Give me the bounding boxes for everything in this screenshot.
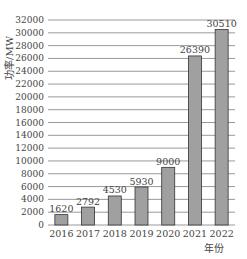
y-tick-label: 32000 [15, 15, 44, 25]
bar-value-label: 1620 [49, 203, 73, 214]
x-tick-label: 2016 [49, 228, 73, 239]
bar-2022 [215, 30, 228, 225]
bar-value-label: 4530 [103, 184, 127, 195]
bar-value-label: 26390 [180, 44, 210, 55]
y-tick-label: 24000 [15, 66, 44, 76]
x-tick-label: 2017 [76, 228, 100, 239]
bar-2019 [135, 187, 148, 225]
bar-value-label: 30510 [207, 18, 237, 29]
bars: 162027924530593090002639030510 [49, 18, 236, 225]
bar-value-label: 2792 [76, 196, 100, 207]
y-tick-label: 8000 [21, 169, 44, 179]
y-tick-label: 12000 [15, 143, 44, 153]
x-tick-label: 2018 [103, 228, 127, 239]
x-tick-label: 2020 [156, 228, 180, 239]
y-tick-label: 20000 [15, 92, 44, 102]
y-tick-label: 22000 [15, 79, 44, 89]
y-tick-label: 2000 [21, 207, 44, 217]
x-tick-label: 2022 [210, 228, 234, 239]
y-tick-label: 30000 [15, 28, 44, 38]
y-tick-label: 4000 [21, 194, 44, 204]
bar-2018 [108, 196, 121, 225]
y-tick-label: 18000 [15, 105, 44, 115]
bar-2016 [55, 215, 68, 225]
y-tick-label: 10000 [15, 156, 44, 166]
y-tick-label: 0 [38, 220, 44, 230]
y-tick-label: 26000 [15, 53, 44, 63]
y-axis-title: 功率/MW [3, 35, 15, 80]
y-tick-label: 28000 [15, 41, 44, 51]
bar-value-label: 9000 [156, 156, 180, 167]
x-tick-label: 2019 [129, 228, 153, 239]
bar-value-label: 5930 [129, 176, 153, 187]
bar-2021 [188, 56, 201, 225]
y-tick-label: 16000 [15, 118, 44, 128]
x-axis-ticks: 2016201720182019202020212022 [49, 228, 233, 239]
y-tick-label: 6000 [21, 182, 44, 192]
x-tick-label: 2021 [183, 228, 207, 239]
y-axis-ticks: 0200040006000800010000120001400016000180… [15, 15, 44, 230]
x-axis-title: 年份 [204, 242, 224, 254]
bar-2017 [82, 207, 95, 225]
bar-2020 [162, 167, 175, 225]
y-tick-label: 14000 [15, 130, 44, 140]
bar-chart: 0200040006000800010000120001400016000180… [0, 0, 247, 259]
